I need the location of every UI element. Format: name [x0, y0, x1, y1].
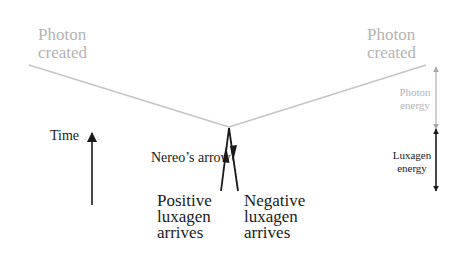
photon-created-right-label: Photon created	[367, 26, 416, 62]
label-line: Photon	[396, 86, 434, 99]
negative-luxagen-label: Negative luxagen arrives	[244, 193, 305, 241]
positive-luxagen-label: Positive luxagen arrives	[157, 193, 212, 241]
time-label: Time	[50, 128, 79, 143]
label-line: created	[38, 44, 87, 62]
label-line: energy	[389, 162, 435, 175]
label-line: created	[367, 44, 416, 62]
label-line: energy	[396, 99, 434, 112]
label-line: arrives	[157, 225, 212, 241]
label-line: Photon	[38, 26, 87, 44]
photon-energy-label: Photon energy	[396, 86, 434, 112]
nereos-arrow-label: Nereo’s arrow	[151, 150, 231, 165]
luxagen-energy-label: Luxagen energy	[389, 149, 435, 175]
label-line: arrives	[244, 225, 305, 241]
photon-worldline-left	[29, 65, 229, 127]
photon-created-left-label: Photon created	[38, 26, 87, 62]
label-line: Photon	[367, 26, 416, 44]
negative-luxagen-arrowhead	[230, 145, 237, 162]
label-line: Luxagen	[389, 149, 435, 162]
